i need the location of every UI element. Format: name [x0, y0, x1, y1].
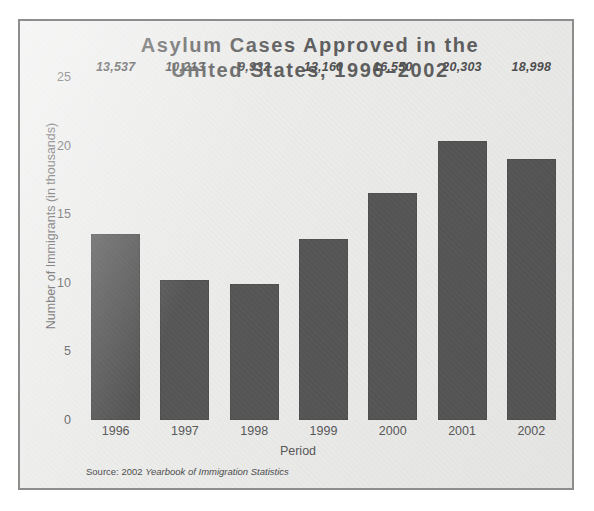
bar-1998[interactable] [230, 284, 279, 420]
bar-value-2002: 18,998 [512, 60, 551, 74]
bar-1996[interactable] [91, 234, 140, 420]
x-tick-2001: 2001 [427, 424, 496, 438]
y-tick-20: 20 [57, 139, 71, 153]
x-tick-1999: 1999 [289, 424, 358, 438]
bar-1999[interactable] [299, 239, 348, 420]
chart-title: Asylum Cases Approved in the United Stat… [80, 33, 540, 83]
bar-value-2000: 16,550 [373, 60, 412, 74]
x-axis-title: Period [20, 444, 576, 458]
bar-2000[interactable] [368, 193, 417, 420]
bar-value-1999: 13,160 [304, 60, 343, 74]
x-tick-1996: 1996 [81, 424, 150, 438]
figure-root: Asylum Cases Approved in the United Stat… [0, 0, 594, 511]
y-tick-10: 10 [57, 276, 71, 290]
source-prefix: Source: 2002 [86, 466, 145, 477]
x-tick-1997: 1997 [150, 424, 219, 438]
y-tick-15: 15 [57, 207, 71, 221]
y-tick-0: 0 [64, 413, 71, 427]
x-axis-ticks: 1996 1997 1998 1999 2000 2001 2002 [81, 424, 566, 438]
bar-value-1998: 9,932 [238, 60, 270, 74]
bar-series: 13,537 10,213 9,932 13,160 16,550 [81, 77, 566, 420]
plot-area: 0 5 10 15 20 25 13,537 10,213 9,932 [81, 77, 566, 420]
y-tick-25: 25 [57, 70, 71, 84]
x-tick-1998: 1998 [220, 424, 289, 438]
bar-slot-2001: 20,303 [427, 77, 496, 420]
bar-slot-1997: 10,213 [150, 77, 219, 420]
bar-1997[interactable] [160, 280, 209, 420]
chart-panel: Asylum Cases Approved in the United Stat… [18, 19, 574, 490]
source-title: Yearbook of Immigration Statistics [145, 466, 289, 477]
x-tick-2000: 2000 [358, 424, 427, 438]
bar-slot-2002: 18,998 [497, 77, 566, 420]
bar-value-1997: 10,213 [165, 60, 204, 74]
bar-slot-1996: 13,537 [81, 77, 150, 420]
bar-value-2001: 20,303 [442, 60, 481, 74]
bar-2002[interactable] [507, 159, 556, 420]
bar-slot-1999: 13,160 [289, 77, 358, 420]
bar-2001[interactable] [438, 141, 487, 420]
y-tick-5: 5 [64, 344, 71, 358]
y-axis-title: Number of Immigrants (in thousands) [44, 111, 58, 341]
x-tick-2002: 2002 [497, 424, 566, 438]
bar-slot-2000: 16,550 [358, 77, 427, 420]
source-note: Source: 2002 Yearbook of Immigration Sta… [86, 466, 289, 477]
bar-slot-1998: 9,932 [220, 77, 289, 420]
bar-value-1996: 13,537 [96, 60, 135, 74]
